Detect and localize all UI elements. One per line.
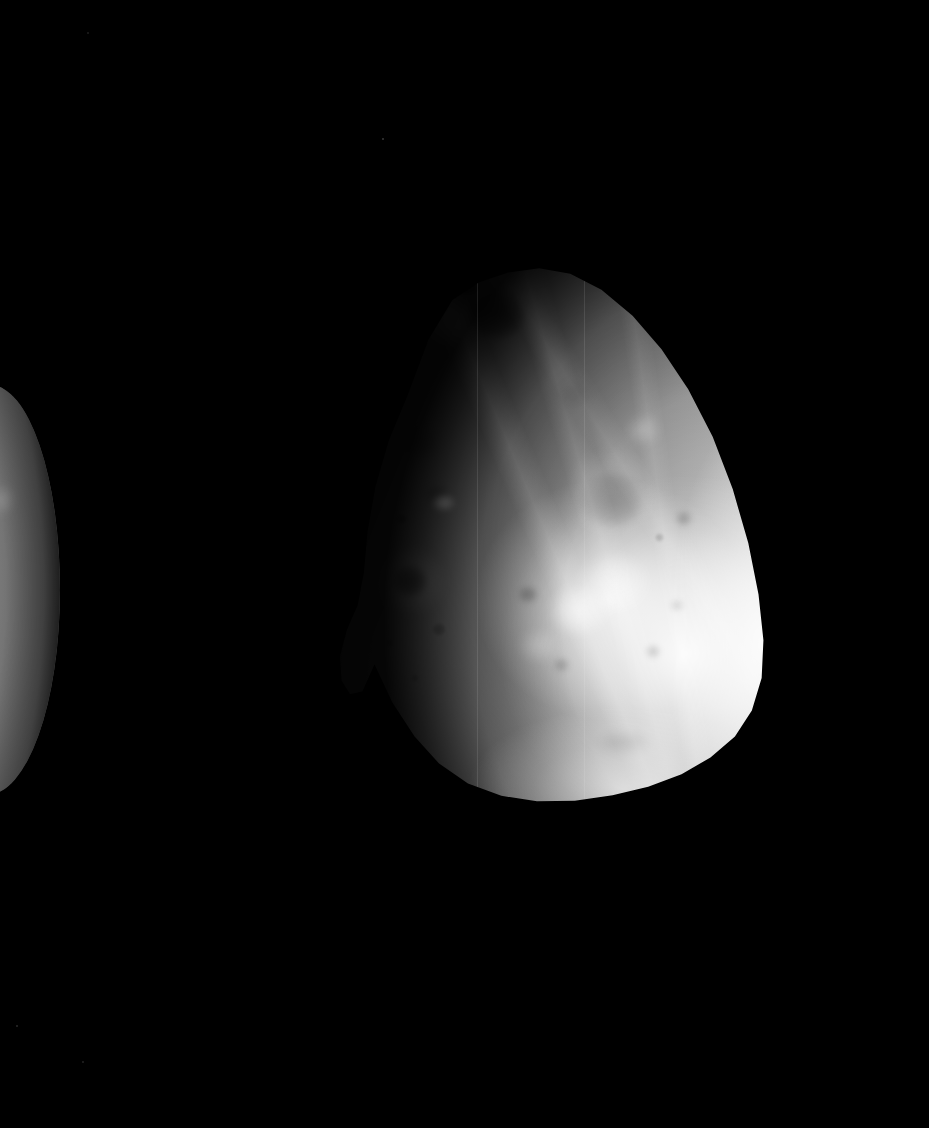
companion-body-disk xyxy=(0,385,60,795)
star-point-2 xyxy=(16,1025,18,1027)
deimos-disk xyxy=(330,265,775,805)
star-point-3 xyxy=(82,1061,84,1063)
image-canvas xyxy=(0,0,929,1128)
scan-seam-1 xyxy=(477,265,478,805)
star-point-4 xyxy=(87,32,89,34)
companion-body xyxy=(0,385,60,795)
deimos-scan-seams xyxy=(330,265,775,805)
scan-seam-2 xyxy=(584,265,585,805)
deimos-body xyxy=(330,265,775,805)
